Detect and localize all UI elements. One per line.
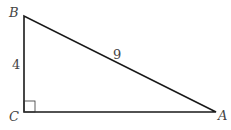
- vertex-label-b: B: [8, 5, 19, 20]
- vertex-label-c: C: [9, 109, 19, 124]
- triangle-abc: [24, 16, 216, 112]
- triangle-diagram: B C A 4 9: [0, 0, 231, 130]
- side-label-ba: 9: [113, 47, 121, 62]
- side-label-bc: 4: [12, 57, 20, 72]
- right-angle-marker: [24, 101, 35, 112]
- vertex-label-a: A: [217, 108, 227, 123]
